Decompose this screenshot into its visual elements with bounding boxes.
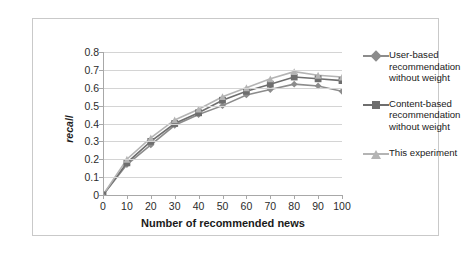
- x-tick-mark: [246, 195, 247, 199]
- data-point-marker: [291, 81, 298, 88]
- chart-frame: recall 0.80.70.60.50.40.30.20.10 0102030…: [32, 18, 439, 236]
- x-tick-mark: [151, 195, 152, 199]
- x-axis-tick-label: 0: [100, 200, 106, 212]
- legend-item[interactable]: This experiment: [363, 147, 468, 160]
- x-axis-tick-label: 60: [241, 200, 253, 212]
- legend-marker-icon: [363, 50, 389, 62]
- x-tick-mark: [103, 195, 104, 199]
- chart-legend: User-based recommendation without weight…: [363, 49, 468, 174]
- x-tick-mark: [175, 195, 176, 199]
- data-point-marker: [219, 93, 226, 100]
- y-axis-tick-label: 0.6: [84, 82, 99, 94]
- gridline: [103, 177, 342, 178]
- x-tick-mark: [223, 195, 224, 199]
- data-point-marker: [171, 117, 178, 124]
- legend-label: This experiment: [389, 147, 457, 159]
- y-axis-tick-label: 0.7: [84, 64, 99, 76]
- legend-label: Content-based recommendation without wei…: [389, 98, 460, 133]
- data-point-marker: [339, 88, 342, 95]
- x-tick-mark: [342, 195, 343, 199]
- gridline: [103, 70, 342, 71]
- x-tick-mark: [270, 195, 271, 199]
- gridline: [103, 159, 342, 160]
- y-axis-tick-label: 0.8: [84, 46, 99, 58]
- x-axis-tick-labels: 0102030405060708090100: [103, 200, 343, 216]
- x-tick-mark: [294, 195, 295, 199]
- legend-marker-icon: [363, 148, 389, 160]
- x-axis-tick-label: 30: [169, 200, 181, 212]
- x-axis-tick-label: 20: [145, 200, 157, 212]
- x-axis-tick-label: 50: [217, 200, 229, 212]
- x-axis-tick-label: 70: [264, 200, 276, 212]
- plot-area: [103, 52, 342, 195]
- x-tick-mark: [127, 195, 128, 199]
- data-point-marker: [195, 106, 202, 113]
- y-axis-tick-label: 0.5: [84, 100, 99, 112]
- gridline: [103, 141, 342, 142]
- legend-item[interactable]: User-based recommendation without weight: [363, 49, 468, 84]
- x-tick-mark: [318, 195, 319, 199]
- y-axis-tick-labels: 0.80.70.60.50.40.30.20.10: [69, 52, 99, 195]
- legend-marker-square: [372, 101, 380, 109]
- legend-marker-icon: [363, 99, 389, 111]
- y-axis-tick-label: 0.4: [84, 118, 99, 130]
- y-axis-tick-label: 0.2: [84, 153, 99, 165]
- gridline: [103, 106, 342, 107]
- x-axis-tick-label: 10: [121, 200, 133, 212]
- legend-item[interactable]: Content-based recommendation without wei…: [363, 98, 468, 133]
- legend-label: User-based recommendation without weight: [389, 49, 460, 84]
- y-axis-tick-label: 0.3: [84, 135, 99, 147]
- y-axis-line: [103, 52, 104, 196]
- x-axis-tick-label: 90: [312, 200, 324, 212]
- legend-marker-diamond: [370, 50, 381, 61]
- gridline: [103, 124, 342, 125]
- x-axis-tick-label: 80: [288, 200, 300, 212]
- gridline: [103, 88, 342, 89]
- x-axis-tick-label: 40: [193, 200, 205, 212]
- y-axis-tick-label: 0.1: [84, 171, 99, 183]
- x-axis-title: Number of recommended news: [103, 217, 343, 229]
- gridline: [103, 52, 342, 53]
- x-axis-tick-label: 100: [333, 200, 351, 212]
- legend-marker-triangle: [371, 150, 381, 159]
- x-tick-mark: [199, 195, 200, 199]
